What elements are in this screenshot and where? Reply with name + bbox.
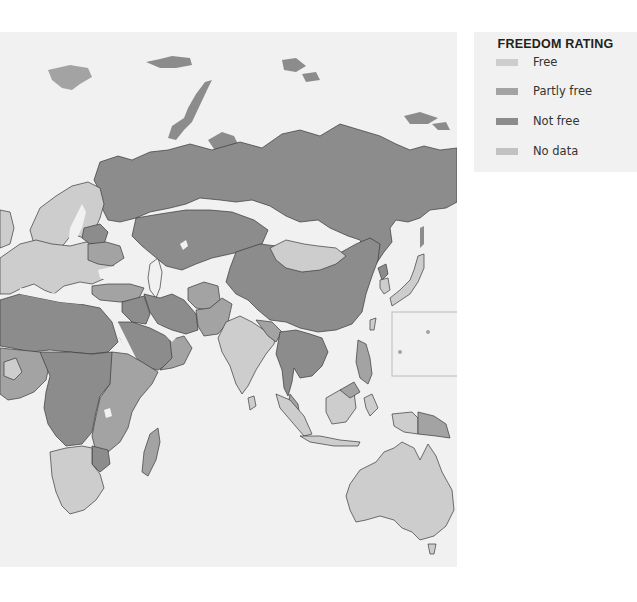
legend-item-partly-free: Partly free [496, 84, 592, 98]
region-sulawesi [364, 394, 378, 416]
region-franz-josef [146, 56, 192, 68]
legend-swatch-free [496, 59, 518, 66]
region-novaya-zemlya [168, 80, 212, 140]
region-madagascar [142, 428, 160, 476]
region-ukraine [88, 242, 124, 266]
world-map [0, 32, 457, 567]
region-caspian-sea [148, 258, 162, 298]
legend-swatch-no-data [496, 148, 518, 155]
map-svg [0, 32, 457, 567]
region-svalbard [48, 65, 92, 90]
legend-item-no-data: No data [496, 144, 578, 158]
legend-item-free: Free [496, 55, 557, 69]
island-marker [398, 350, 402, 354]
legend-title: FREEDOM RATING [474, 37, 637, 51]
region-south-korea [380, 278, 390, 294]
legend-label-free: Free [533, 55, 557, 69]
region-japan [390, 254, 424, 306]
region-java [300, 436, 360, 446]
region-new-guinea-west [392, 412, 418, 434]
legend-label-no-data: No data [533, 144, 578, 158]
legend-swatch-partly-free [496, 88, 518, 95]
legend-label-partly-free: Partly free [533, 84, 592, 98]
legend-label-not-free: Not free [533, 114, 579, 128]
region-sakhalin [420, 226, 424, 248]
map-inset-frame [392, 312, 457, 376]
region-australia [346, 442, 454, 540]
legend-item-not-free: Not free [496, 114, 579, 128]
region-tasmania [428, 544, 436, 554]
region-uk [0, 210, 14, 248]
region-arctic-islands-east [282, 58, 450, 130]
region-southeast-asia [276, 330, 328, 396]
region-philippines [356, 340, 372, 384]
region-north-africa [0, 294, 118, 354]
legend-swatch-not-free [496, 118, 518, 125]
region-sri-lanka [248, 396, 256, 410]
region-north-korea [378, 264, 388, 280]
legend-panel: FREEDOM RATING Free Partly free Not free… [474, 32, 637, 172]
region-papua-new-guinea [418, 412, 450, 438]
region-taiwan [370, 318, 376, 330]
island-marker [426, 330, 430, 334]
